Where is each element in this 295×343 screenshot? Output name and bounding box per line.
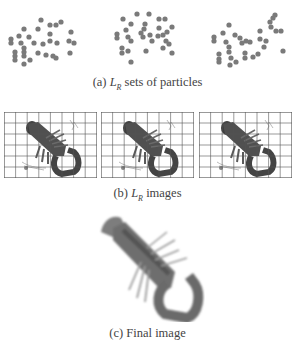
lr-image-2 <box>101 112 194 178</box>
caption-b: (b) LR images <box>0 186 295 203</box>
caption-a: (a) LR sets of particles <box>0 75 295 92</box>
lr-image-1 <box>4 112 97 178</box>
particle-set-1 <box>0 5 95 70</box>
particle-set-2 <box>100 5 195 70</box>
lr-image-3 <box>199 112 292 178</box>
particle-set-3 <box>200 5 295 70</box>
caption-c: (c) Final image <box>0 326 295 341</box>
final-lobster-image <box>95 210 205 322</box>
